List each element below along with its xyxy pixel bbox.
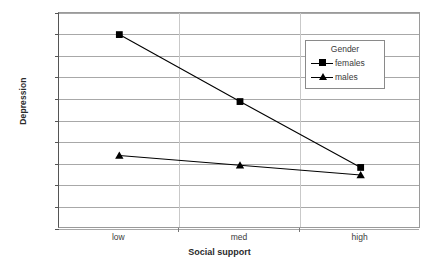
x-tick-label: low (78, 232, 158, 242)
legend-title: Gender (308, 44, 382, 54)
legend-item-females[interactable]: females (308, 56, 382, 70)
x-tick-mark (178, 228, 179, 232)
x-tick-label: high (320, 232, 400, 242)
legend-item-males[interactable]: males (308, 70, 382, 84)
x-tick-mark (299, 228, 300, 232)
data-point-square (116, 31, 123, 38)
interaction-line-chart: Depression 4567891011121314 lowmedhigh G… (0, 0, 439, 264)
square-marker-icon (311, 58, 333, 68)
data-point-square (357, 164, 364, 171)
y-axis-title: Depression (18, 56, 28, 146)
data-point-square (237, 98, 244, 105)
x-axis-title: Social support (0, 247, 439, 257)
data-point-triangle (115, 152, 123, 159)
legend-item-label: females (335, 58, 365, 68)
x-tick-label: med (199, 232, 279, 242)
triangle-marker-icon (311, 72, 333, 82)
legend-item-label: males (335, 72, 358, 82)
legend: Gender females males (305, 40, 385, 89)
